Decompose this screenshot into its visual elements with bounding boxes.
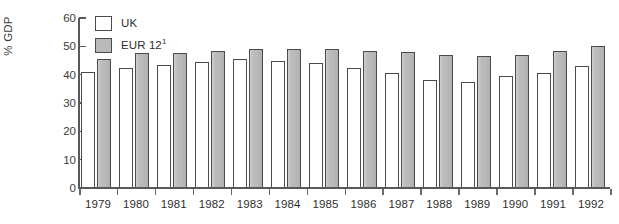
y-axis-tick-label: 30 [50,96,76,110]
bar-uk-1984 [271,61,285,189]
x-axis-label-1979: 1979 [79,198,117,210]
x-axis-label-1991: 1991 [534,198,572,210]
x-axis-tick-mark [610,189,612,195]
x-axis-tick-mark [79,189,81,195]
y-axis-tick: 40 [44,68,86,82]
bar-eur12-1984 [287,49,301,188]
x-axis-tick-mark [307,189,309,195]
x-axis-tick-mark [534,189,536,195]
y-axis-tick: 10 [44,153,86,167]
x-axis-label-1983: 1983 [231,198,269,210]
x-axis-label-1987: 1987 [382,198,420,210]
bar-eur12-1985 [325,49,339,188]
x-axis-label-1988: 1988 [420,198,458,210]
x-axis-tick-mark [572,189,574,195]
bar-eur12-1982 [211,51,225,188]
y-axis-tick-label: 50 [50,39,76,53]
bar-uk-1980 [119,68,133,188]
y-axis-tick-label: 0 [50,181,76,195]
y-axis-tick: 60 [44,11,86,25]
x-axis-label-1992: 1992 [572,198,610,210]
bar-eur12-1980 [135,53,149,188]
x-axis-label-1990: 1990 [496,198,534,210]
x-axis-label-1982: 1982 [193,198,231,210]
y-axis-tick-label: 60 [50,11,76,25]
legend-item-eur12: EUR 121 [95,35,166,55]
bar-eur12-1986 [363,51,377,188]
x-axis-label-1985: 1985 [307,198,345,210]
y-axis-tick: 30 [44,96,86,110]
x-axis-tick-mark [382,189,384,195]
x-axis-tick-mark [496,189,498,195]
x-axis-label-1980: 1980 [117,198,155,210]
x-axis-label-1984: 1984 [269,198,307,210]
y-axis-title: % GDP [2,0,22,86]
y-axis-tick-mark [79,46,86,48]
bar-uk-1988 [423,80,437,188]
x-axis-label-1989: 1989 [458,198,496,210]
bar-eur12-1991 [553,51,567,188]
legend-label: UK [121,17,137,29]
y-axis-tick-label: 10 [50,153,76,167]
x-axis-tick-mark [231,189,233,195]
y-axis-tick-label: 20 [50,124,76,138]
bar-eur12-1992 [591,46,605,188]
bar-uk-1991 [537,73,551,188]
bar-eur12-1979 [97,59,111,188]
bar-uk-1992 [575,66,589,188]
bar-eur12-1990 [515,55,529,188]
bar-uk-1986 [347,68,361,188]
x-axis-tick-mark [420,189,422,195]
bar-uk-1985 [309,63,323,188]
x-axis-tick-mark [193,189,195,195]
legend-label: EUR 121 [121,39,166,51]
x-axis-tick-mark [155,189,157,195]
y-axis-tick: 50 [44,39,86,53]
bar-eur12-1988 [439,55,453,188]
bar-eur12-1983 [249,49,263,188]
x-axis-label-1981: 1981 [155,198,193,210]
bar-uk-1989 [461,82,475,188]
bar-uk-1979 [81,72,95,188]
y-axis-tick-label: 40 [50,68,76,82]
x-axis-tick-mark [117,189,119,195]
bar-uk-1987 [385,73,399,188]
bar-eur12-1989 [477,56,491,188]
x-axis-tick-mark [345,189,347,195]
legend-item-uk: UK [95,13,166,33]
bar-chart: % GDP 6050403020100 19791980198119821983… [0,0,619,224]
bar-uk-1982 [195,62,209,188]
x-axis-label-1986: 1986 [345,198,383,210]
bar-eur12-1981 [173,53,187,188]
bar-uk-1981 [157,65,171,188]
y-axis-tick-mark [79,17,86,19]
legend-swatch-uk [95,16,112,31]
bar-uk-1990 [499,76,513,188]
x-axis-tick-mark [269,189,271,195]
bar-eur12-1987 [401,52,415,188]
x-axis-tick-mark [458,189,460,195]
chart-legend: UKEUR 121 [95,13,166,57]
legend-swatch-eur12 [95,38,112,53]
bar-uk-1983 [233,59,247,188]
y-axis-tick: 20 [44,124,86,138]
legend-label-footnote-marker: 1 [162,37,167,46]
